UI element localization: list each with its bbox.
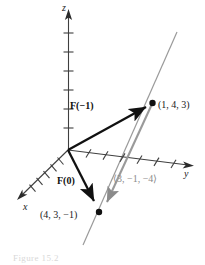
figure-caption: Figure 15.2 [13,254,59,263]
point-tail-marker [96,209,102,215]
figure-container: z y x F(−1) F(0) (1, 4, 3) (4, 3, −1) ⟨3… [0,0,205,265]
label-vector-F-0: F(0) [57,176,75,186]
z-axis [64,9,74,150]
axis-label-z: z [62,3,66,13]
axis-label-x: x [23,202,27,212]
vector-field-diagram [0,0,205,265]
label-point-tail: (4, 3, −1) [40,210,77,220]
label-point-head: (1, 4, 3) [158,100,190,110]
label-vector-F-minus-1: F(−1) [70,101,93,111]
point-head-marker [149,100,155,106]
axis-label-y: y [184,169,188,179]
label-direction-vector: ⟨3, −1, −4⟩ [113,174,157,184]
direction-vector-arrow [107,104,152,202]
